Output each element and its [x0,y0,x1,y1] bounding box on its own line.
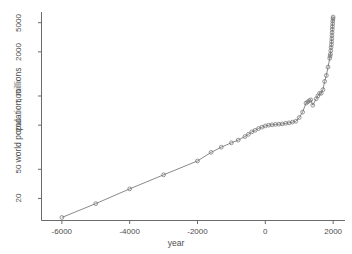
world-population-chart: 205020050020005000 -6000-4000-200002000 … [0,0,352,254]
x-tick-label: -4000 [119,227,139,236]
y-tick-marks [38,23,42,199]
x-axis-title: year [168,238,185,248]
y-axis-title-wrap: world population, millions [13,50,23,180]
x-tick-label: 2000 [324,227,342,236]
x-tick-label: 0 [263,227,267,236]
y-tick-label: 5000 [14,5,23,41]
population-markers [60,15,335,219]
population-line [62,17,333,217]
x-tick-label: -6000 [52,227,72,236]
x-tick-marks [62,221,333,225]
y-axis-title: world population, millions [13,68,23,163]
x-tick-label: -2000 [187,227,207,236]
plot-canvas [0,0,352,254]
